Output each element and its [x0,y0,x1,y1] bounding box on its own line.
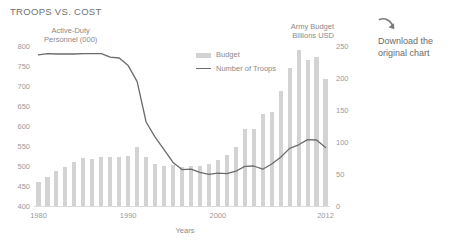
download-label-line1: Download the [378,36,433,46]
x-axis-tick: 2000 [201,211,235,220]
legend-label-budget: Budget [216,50,240,59]
x-axis-tick: 1980 [21,211,55,220]
troops-line-series [34,46,330,206]
right-axis-tick: 50 [336,170,360,179]
legend-label-troops: Number of Troops [216,64,276,73]
download-original-chart-link[interactable]: Download the original chart [378,18,452,59]
left-axis-tick: 550 [8,142,30,151]
x-axis-title: Years [150,226,220,235]
left-axis-tick: 400 [8,202,30,211]
chart-title: TROOPS VS. COST [10,6,102,17]
left-axis-tick: 650 [8,102,30,111]
legend-line-troops-icon [196,68,211,69]
right-axis-tick: 200 [336,74,360,83]
right-axis-title: Army BudgetBillions USD [258,22,334,40]
right-axis-tick: 0 [336,202,360,211]
x-axis-line [34,206,330,207]
right-axis-tick: 100 [336,138,360,147]
left-axis-tick: 700 [8,82,30,91]
download-label-line2: original chart [378,48,430,58]
left-axis-tick: 800 [8,42,30,51]
x-axis-tick: 2012 [309,211,343,220]
chart-figure: TROOPS VS. COST Active-DutyPersonnel (00… [0,0,454,250]
legend-swatch-budget-icon [196,53,211,58]
left-axis-title: Active-DutyPersonnel (000) [44,26,97,44]
troops-line-path [38,54,325,175]
legend-item-budget: Budget [196,50,240,59]
download-arrow-icon [378,18,398,32]
left-axis-tick: 500 [8,162,30,171]
right-axis-tick: 150 [336,106,360,115]
left-axis-tick: 600 [8,122,30,131]
legend-item-troops: Number of Troops [196,64,276,73]
left-axis-tick: 750 [8,62,30,71]
x-axis-tick: 1990 [111,211,145,220]
right-axis-tick: 250 [336,42,360,51]
left-axis-tick: 450 [8,182,30,191]
